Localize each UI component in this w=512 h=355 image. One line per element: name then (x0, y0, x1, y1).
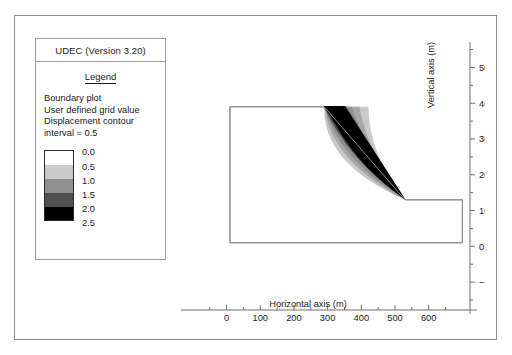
plot-canvas: 0100200300400500600−1000100200300400500 (177, 38, 485, 328)
legend-line-displacement-contour: Displacement contour (44, 116, 165, 128)
color-scale-band-3 (45, 193, 73, 207)
color-scale-band-0 (45, 151, 73, 165)
x-tick-label-300: 300 (320, 313, 336, 323)
x-tick-label-500: 500 (387, 313, 403, 323)
y-tick-label-300: 300 (479, 134, 485, 144)
color-scale-label-5: 2.5 (82, 219, 95, 228)
legend-heading: Legend (36, 71, 165, 82)
y-tick-label-0: 0 (479, 242, 484, 252)
color-scale-labels: 0.00.51.01.52.02.5 (82, 148, 142, 224)
y-tick-label--100: −100 (479, 278, 485, 288)
color-scale-label-4: 2.0 (82, 205, 95, 214)
color-scale-label-2: 1.0 (82, 177, 95, 186)
y-tick-label-200: 200 (479, 170, 485, 180)
legend-heading-text: Legend (85, 71, 117, 84)
legend-line-interval: interval = 0.5 (44, 128, 165, 140)
y-tick-label-500: 500 (479, 63, 485, 73)
legend-line-boundary-plot: Boundary plot (44, 93, 165, 105)
x-tick-label-400: 400 (354, 313, 370, 323)
legend-panel: UDEC (Version 3.20) Legend Boundary plot… (35, 38, 166, 260)
x-tick-label-600: 600 (421, 313, 437, 323)
window-title-box: UDEC (Version 3.20) (36, 39, 165, 62)
plot-frame: UDEC (Version 3.20) Legend Boundary plot… (14, 15, 497, 340)
x-tick-label-200: 200 (286, 313, 302, 323)
color-scale-band-2 (45, 179, 73, 193)
color-scale: 0.00.51.01.52.02.5 (44, 148, 154, 224)
legend-description: Boundary plot User defined grid value Di… (36, 93, 165, 139)
y-axis-label: Vertical axis (m) (426, 42, 436, 108)
x-tick-label-100: 100 (253, 313, 269, 323)
color-scale-bar (44, 150, 74, 221)
legend-body: Legend Boundary plot User defined grid v… (36, 62, 165, 224)
y-tick-label-100: 100 (479, 206, 485, 216)
color-scale-band-1 (45, 165, 73, 179)
x-tick-label-0: 0 (224, 313, 229, 323)
color-scale-band-4 (45, 207, 73, 221)
color-scale-label-0: 0.0 (82, 148, 95, 157)
x-axis-label: Horizontal axis (m) (163, 299, 453, 309)
y-tick-label-400: 400 (479, 99, 485, 109)
color-scale-label-1: 0.5 (82, 163, 95, 172)
window-title: UDEC (Version 3.20) (55, 45, 146, 56)
contour-plot: 0100200300400500600−1000100200300400500 (177, 38, 485, 328)
color-scale-label-3: 1.5 (82, 191, 95, 200)
legend-line-grid-value: User defined grid value (44, 105, 165, 117)
